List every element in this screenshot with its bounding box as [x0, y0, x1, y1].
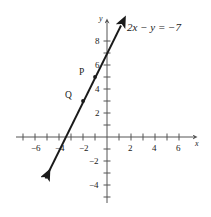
x-tick-label-minus-2: −2 — [79, 144, 89, 153]
x-axis-label: x — [195, 140, 199, 148]
point-p-label: P — [79, 68, 84, 78]
point-p-dot — [93, 75, 97, 79]
y-tick-label-2: 2 — [95, 109, 100, 118]
graph-figure: −6 −4 −2 2 4 6 8 6 4 2 −2 −4 y x P Q 2x … — [0, 0, 211, 217]
y-tick-label-4: 4 — [95, 85, 100, 94]
y-tick-label-8: 8 — [95, 37, 100, 46]
x-tick-label-minus-4: −4 — [55, 144, 65, 153]
x-tick-label-2: 2 — [128, 144, 133, 153]
point-q-label: Q — [65, 91, 72, 101]
y-tick-label-minus-2: −2 — [89, 157, 99, 166]
y-axis-label: y — [99, 15, 103, 23]
y-tick-label-minus-4: −4 — [89, 181, 99, 190]
x-tick-label-minus-6: −6 — [31, 144, 41, 153]
point-q-dot — [81, 99, 85, 103]
x-tick-label-6: 6 — [176, 144, 181, 153]
x-tick-label-4: 4 — [152, 144, 157, 153]
x-axis — [16, 134, 193, 141]
y-tick-label-6: 6 — [95, 61, 100, 70]
equation-label: 2x − y = −7 — [127, 22, 181, 33]
